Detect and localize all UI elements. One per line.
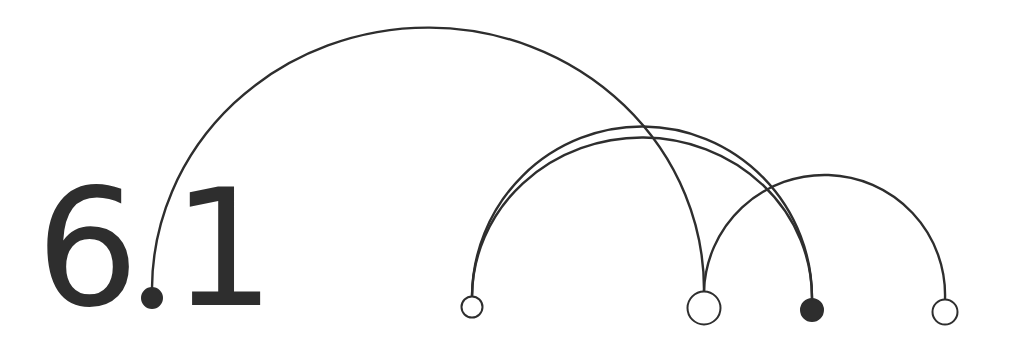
arc-n1-n3-inner [472, 137, 812, 299]
arc-diagram [0, 0, 1009, 348]
node-decimal-point [142, 288, 162, 308]
node-n4-hollow [933, 300, 958, 325]
node-n2-hollow-large [688, 292, 721, 325]
arc-n2-n4 [704, 175, 945, 299]
arc-diagram-canvas: 6 1 [0, 0, 1009, 348]
arc-n0-n2 [152, 28, 704, 291]
node-n1-hollow [462, 297, 483, 318]
arc-n1-n3-outer [472, 126, 812, 299]
node-n3-filled [801, 299, 823, 321]
